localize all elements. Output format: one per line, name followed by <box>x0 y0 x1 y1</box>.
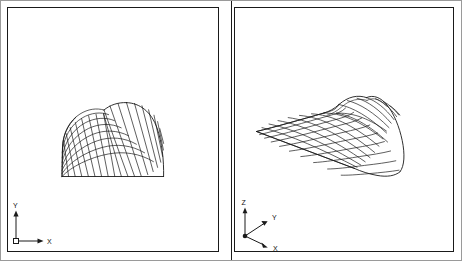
panel-divider <box>231 0 232 261</box>
axis-label-y: Y <box>13 202 18 209</box>
axis-indicator-3d: Z Y X <box>235 198 291 252</box>
axis-origin-marker <box>243 234 248 239</box>
z-axis-arrowhead <box>243 208 248 214</box>
viewport-left[interactable]: Y X <box>0 0 232 261</box>
viewport-right[interactable]: Z Y X <box>231 0 462 261</box>
axis-label-x: X <box>47 238 52 245</box>
x-axis-arrowhead <box>38 238 44 243</box>
figure-root: Y X <box>0 0 462 261</box>
x-axis-arrowhead <box>261 243 267 248</box>
axis-indicator-2d: Y X <box>8 202 56 252</box>
axis-label-z: Z <box>242 199 247 206</box>
axis-label-y: Y <box>272 214 277 221</box>
y-axis-arrowhead <box>13 211 18 217</box>
axis-label-x: X <box>273 245 278 252</box>
